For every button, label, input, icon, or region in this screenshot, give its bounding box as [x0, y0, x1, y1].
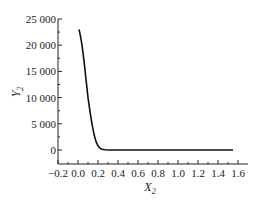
data-line	[79, 30, 233, 151]
x-tick-label: 1.0	[171, 167, 185, 179]
x-tick-label: 0.6	[131, 167, 145, 179]
x-tick-label: 0.0	[71, 167, 85, 179]
y-tick-label: 25 000	[26, 13, 57, 25]
y-tick-label: 10 000	[26, 92, 57, 104]
x-tick-label: 1.2	[191, 167, 205, 179]
y-tick-label: 5 000	[31, 118, 56, 130]
x-tick-label: 1.6	[231, 167, 245, 179]
y-axis-label: Y2	[9, 87, 25, 98]
x-tick-label: −0.2	[48, 167, 68, 179]
x-tick-label: 0.8	[151, 167, 165, 179]
x-axis-label: X2	[143, 180, 155, 196]
x-tick-label: 1.4	[211, 167, 225, 179]
y-tick-label: 15 000	[26, 65, 57, 77]
x-tick-label: 0.2	[91, 167, 105, 179]
line-chart: 05 00010 00015 00020 00025 000−0.20.00.2…	[0, 0, 261, 209]
y-tick-label: 20 000	[26, 39, 57, 51]
y-tick-label: 0	[51, 144, 57, 156]
x-tick-label: 0.4	[111, 167, 125, 179]
